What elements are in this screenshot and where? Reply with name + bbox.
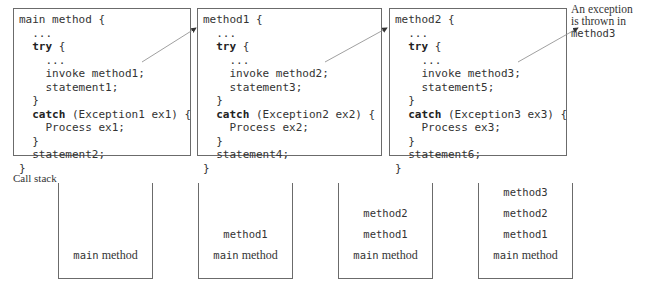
annotation-line-3: method3: [571, 27, 633, 39]
frame-suffix: method: [379, 248, 418, 262]
code-keyword: try: [408, 40, 428, 53]
code-indent: [203, 108, 216, 121]
code-indent: [203, 27, 216, 40]
frame-method-name: main: [493, 249, 518, 261]
code-text: statement5;: [422, 81, 495, 94]
stack-frame: method1: [503, 224, 547, 245]
code-line: statement2;: [19, 148, 190, 162]
call-stack-2: method1main method: [198, 183, 293, 279]
call-stack-4: method3method2method1main method: [478, 183, 573, 279]
code-line: catch (Exception2 ex2) {: [203, 108, 381, 122]
stack-frame: method2: [503, 203, 547, 224]
code-line: ...: [19, 27, 190, 41]
code-text: }: [216, 94, 223, 107]
code-indent: [203, 40, 216, 53]
code-text: statement2;: [32, 148, 105, 161]
code-text: ...: [422, 54, 442, 67]
stack-frame: method2: [363, 203, 407, 224]
code-text: ...: [230, 54, 250, 67]
code-text: statement4;: [216, 148, 289, 161]
code-indent: [203, 54, 230, 67]
stack-frame: main method: [213, 245, 277, 266]
code-line: }: [395, 135, 566, 149]
code-text: }: [32, 94, 39, 107]
frame-method-name: method2: [363, 207, 407, 219]
code-line: }: [395, 94, 566, 108]
method2-code-box: method2 { ... try { ... invoke method3; …: [389, 8, 567, 156]
code-text: statement6;: [408, 148, 481, 161]
code-text: (Exception3 ex3) {: [441, 108, 567, 121]
code-line: }: [203, 135, 381, 149]
code-text: invoke method3;: [422, 67, 521, 80]
code-text: }: [408, 94, 415, 107]
method1-code-box: method1 { ... try { ... invoke method2; …: [197, 8, 382, 156]
code-indent: [19, 94, 32, 107]
code-indent: [395, 94, 408, 107]
stack-frame: main method: [493, 245, 557, 266]
code-keyword: catch: [32, 108, 65, 121]
code-indent: [395, 135, 408, 148]
code-line: invoke method1;: [19, 67, 190, 81]
code-line: }: [203, 162, 381, 176]
code-indent: [203, 148, 216, 161]
frame-suffix: method: [239, 248, 278, 262]
code-text: {: [428, 40, 441, 53]
code-line: invoke method3;: [395, 67, 566, 81]
code-indent: [395, 108, 408, 121]
code-text: }: [216, 135, 223, 148]
code-line: ...: [203, 27, 381, 41]
code-line: ...: [395, 27, 566, 41]
call-stack-1: main method: [58, 183, 153, 279]
code-line: statement6;: [395, 148, 566, 162]
code-line: Process ex2;: [203, 121, 381, 135]
code-text: (Exception2 ex2) {: [249, 108, 375, 121]
code-text: (Exception1 ex1) {: [65, 108, 191, 121]
code-indent: [19, 40, 32, 53]
stack-frame: method1: [363, 224, 407, 245]
annotation-line-2: is thrown in: [571, 15, 633, 27]
code-text: {: [236, 40, 249, 53]
code-indent: [395, 27, 408, 40]
code-text: invoke method1;: [46, 67, 145, 80]
code-line: Process ex1;: [19, 121, 190, 135]
frame-suffix: method: [99, 248, 138, 262]
code-line: try {: [203, 40, 381, 54]
code-indent: [19, 27, 32, 40]
frame-suffix: method: [519, 248, 558, 262]
frame-method-name: main: [213, 249, 238, 261]
code-text: method2 {: [395, 13, 455, 26]
code-line: try {: [19, 40, 190, 54]
stack-frame: method3: [503, 182, 547, 203]
exception-annotation: An exception is thrown in method3: [571, 3, 633, 39]
code-indent: [395, 148, 408, 161]
frame-method-name: method3: [503, 186, 547, 198]
frame-method-name: main: [353, 249, 378, 261]
code-indent: [19, 67, 46, 80]
code-indent: [395, 81, 422, 94]
code-line: method1 {: [203, 13, 381, 27]
code-keyword: catch: [216, 108, 249, 121]
code-text: {: [52, 40, 65, 53]
code-indent: [19, 81, 46, 94]
code-line: ...: [395, 54, 566, 68]
code-indent: [19, 135, 32, 148]
stack-frame: main method: [73, 245, 137, 266]
code-indent: [19, 148, 32, 161]
code-indent: [395, 40, 408, 53]
code-line: main method {: [19, 13, 190, 27]
code-line: try {: [395, 40, 566, 54]
code-indent: [19, 108, 32, 121]
code-line: catch (Exception3 ex3) {: [395, 108, 566, 122]
code-indent: [203, 135, 216, 148]
code-text: ...: [32, 27, 52, 40]
code-text: Process ex1;: [46, 121, 125, 134]
frame-method-name: main: [73, 249, 98, 261]
code-indent: [203, 121, 230, 134]
code-line: statement1;: [19, 81, 190, 95]
code-text: invoke method2;: [230, 67, 329, 80]
code-keyword: try: [216, 40, 236, 53]
code-line: invoke method2;: [203, 67, 381, 81]
stack-frame: main method: [353, 245, 417, 266]
code-line: method2 {: [395, 13, 566, 27]
code-indent: [395, 54, 422, 67]
